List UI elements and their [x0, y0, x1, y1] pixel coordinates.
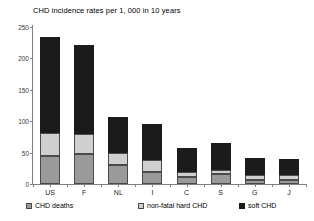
x-axis-label-i: I [151, 188, 153, 197]
x-axis-minor-tick-mark [272, 184, 273, 187]
bar-s[interactable] [211, 27, 231, 184]
chart-title: CHD incidence rates per 1, 000 in 10 yea… [33, 6, 181, 16]
legend-label: CHD deaths [35, 201, 73, 211]
bar-i[interactable] [142, 27, 162, 184]
bar-j[interactable] [279, 27, 299, 184]
plot-area: 050100150200250 [33, 27, 306, 184]
y-axis-tick-mark [30, 58, 33, 59]
bar-segment-non-fatal-hard-chd[interactable] [177, 172, 197, 177]
legend-item-soft-chd[interactable]: soft CHD [239, 201, 276, 211]
x-axis-minor-tick-mark [67, 184, 68, 187]
x-axis-minor-tick-mark [204, 184, 205, 187]
x-axis-tick-mark [255, 184, 256, 187]
bar-segment-chd-deaths[interactable] [74, 154, 94, 184]
x-axis-label-us: US [45, 188, 55, 197]
bar-segment-soft-chd[interactable] [142, 124, 162, 160]
y-axis-tick-label: 0 [25, 181, 29, 188]
x-axis-tick-mark [221, 184, 222, 187]
y-axis-tick-mark [30, 27, 33, 28]
bar-segment-non-fatal-hard-chd[interactable] [40, 133, 60, 156]
x-axis-minor-tick-mark [306, 184, 307, 187]
x-axis-tick-mark [118, 184, 119, 187]
x-axis-tick-mark [152, 184, 153, 187]
x-axis-label-f: F [82, 188, 86, 197]
bar-us[interactable] [40, 27, 60, 184]
y-axis-tick-mark [30, 90, 33, 91]
legend-label: soft CHD [248, 201, 276, 211]
legend-swatch-soft-chd [239, 203, 245, 209]
x-axis-label-g: G [252, 188, 257, 197]
x-axis-tick-mark [289, 184, 290, 187]
bar-segment-non-fatal-hard-chd[interactable] [74, 134, 94, 155]
legend-swatch-non-fatal-hard-chd [138, 203, 144, 209]
bar-segment-soft-chd[interactable] [74, 45, 94, 134]
legend-item-non-fatal-hard-chd[interactable]: non-fatal hard CHD [138, 201, 207, 211]
bar-segment-non-fatal-hard-chd[interactable] [108, 153, 128, 165]
y-axis-tick-label: 150 [18, 86, 29, 93]
x-axis-label-nl: NL [114, 188, 123, 197]
x-axis-tick-mark [187, 184, 188, 187]
x-axis-label-c: C [184, 188, 189, 197]
y-axis-tick-mark [30, 121, 33, 122]
bar-f[interactable] [74, 27, 94, 184]
x-axis-minor-tick-mark [101, 184, 102, 187]
bar-nl[interactable] [108, 27, 128, 184]
bar-segment-chd-deaths[interactable] [177, 177, 197, 184]
x-axis-minor-tick-mark [33, 184, 34, 187]
bar-segment-non-fatal-hard-chd[interactable] [245, 175, 265, 180]
legend-item-chd-deaths[interactable]: CHD deaths [26, 201, 73, 211]
y-axis-tick-mark [30, 153, 33, 154]
y-axis-tick-label: 250 [18, 24, 29, 31]
x-axis-minor-tick-mark [135, 184, 136, 187]
bar-segment-chd-deaths[interactable] [142, 172, 162, 184]
bar-g[interactable] [245, 27, 265, 184]
bar-segment-soft-chd[interactable] [108, 117, 128, 152]
bar-segment-non-fatal-hard-chd[interactable] [279, 175, 299, 181]
bar-segment-chd-deaths[interactable] [108, 165, 128, 184]
x-axis-minor-tick-mark [238, 184, 239, 187]
bar-segment-non-fatal-hard-chd[interactable] [142, 160, 162, 172]
x-axis-label-s: S [218, 188, 223, 197]
x-axis-tick-mark [50, 184, 51, 187]
bar-segment-non-fatal-hard-chd[interactable] [211, 170, 231, 174]
legend-swatch-chd-deaths [26, 203, 32, 209]
y-axis-tick-label: 200 [18, 55, 29, 62]
bar-segment-soft-chd[interactable] [279, 159, 299, 175]
bar-segment-chd-deaths[interactable] [40, 156, 60, 184]
bar-segment-soft-chd[interactable] [177, 148, 197, 172]
legend-label: non-fatal hard CHD [147, 201, 207, 211]
x-axis-tick-mark [84, 184, 85, 187]
chart-legend: CHD deathsnon-fatal hard CHDsoft CHD [26, 201, 314, 213]
bar-segment-soft-chd[interactable] [40, 37, 60, 133]
bar-segment-chd-deaths[interactable] [211, 174, 231, 184]
bar-c[interactable] [177, 27, 197, 184]
x-axis-minor-tick-mark [170, 184, 171, 187]
chart-container: CHD incidence rates per 1, 000 in 10 yea… [0, 0, 314, 221]
bar-segment-soft-chd[interactable] [211, 143, 231, 170]
x-axis-label-j: J [287, 188, 291, 197]
y-axis-tick-label: 50 [22, 149, 29, 156]
y-axis-tick-label: 100 [18, 118, 29, 125]
bar-segment-soft-chd[interactable] [245, 158, 265, 176]
